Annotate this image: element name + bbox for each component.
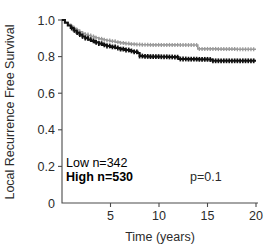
y-tick-label: 0.4	[38, 123, 55, 137]
curves-group	[62, 20, 256, 63]
km-plot-svg: 00.20.40.60.81.05101520 Local Recurrence…	[0, 0, 274, 248]
y-tick-label: 0.8	[38, 50, 55, 64]
y-tick-label: 0.6	[38, 87, 55, 101]
x-tick-label: 5	[107, 209, 114, 223]
y-tick-label: 1.0	[38, 14, 55, 28]
x-tick-label: 20	[249, 209, 263, 223]
y-axis-title: Local Recurrence Free Survival	[3, 24, 17, 199]
y-tick-label: 0.2	[38, 160, 55, 174]
p-value-annotation: p=0.1	[190, 170, 222, 184]
x-tick-label: 15	[201, 209, 215, 223]
km-survival-chart: 00.20.40.60.81.05101520 Local Recurrence…	[0, 0, 274, 248]
x-axis-title: Time (years)	[125, 230, 195, 244]
legend-item-high: High n=530	[66, 170, 133, 184]
y-tick-label: 0	[48, 197, 55, 211]
x-tick-label: 10	[152, 209, 166, 223]
legend-item-low: Low n=342	[66, 156, 128, 170]
